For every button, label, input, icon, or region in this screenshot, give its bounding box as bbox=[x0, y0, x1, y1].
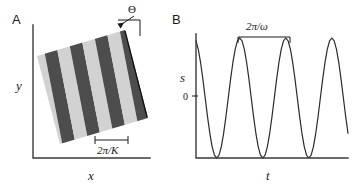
panel-a-xlabel: x bbox=[87, 168, 94, 183]
panel-a-ylabel: y bbox=[14, 78, 22, 93]
waveform-curve bbox=[196, 38, 348, 158]
panel-b-group: B 2π/ω 0 s t bbox=[172, 12, 348, 183]
panel-b-letter: B bbox=[172, 12, 181, 27]
panel-b-xlabel: t bbox=[266, 168, 270, 183]
panel-a-letter: A bbox=[12, 12, 21, 27]
temporal-period-label: 2π/ω bbox=[246, 20, 268, 32]
panel-b-ylabel: s bbox=[180, 70, 185, 85]
grating-stimulus bbox=[16, 9, 160, 169]
theta-label: Θ bbox=[128, 3, 136, 15]
figure-svg: A bbox=[0, 0, 357, 191]
panel-a-group: A bbox=[12, 3, 160, 183]
theta-arrow bbox=[119, 16, 134, 26]
figure-root: A bbox=[0, 0, 357, 191]
stripe-dark bbox=[16, 29, 54, 169]
panel-b-axes bbox=[196, 34, 348, 158]
zero-tick-label: 0 bbox=[183, 91, 188, 102]
spatial-period-label: 2π/K bbox=[97, 144, 119, 156]
grating-stripes bbox=[16, 9, 157, 169]
